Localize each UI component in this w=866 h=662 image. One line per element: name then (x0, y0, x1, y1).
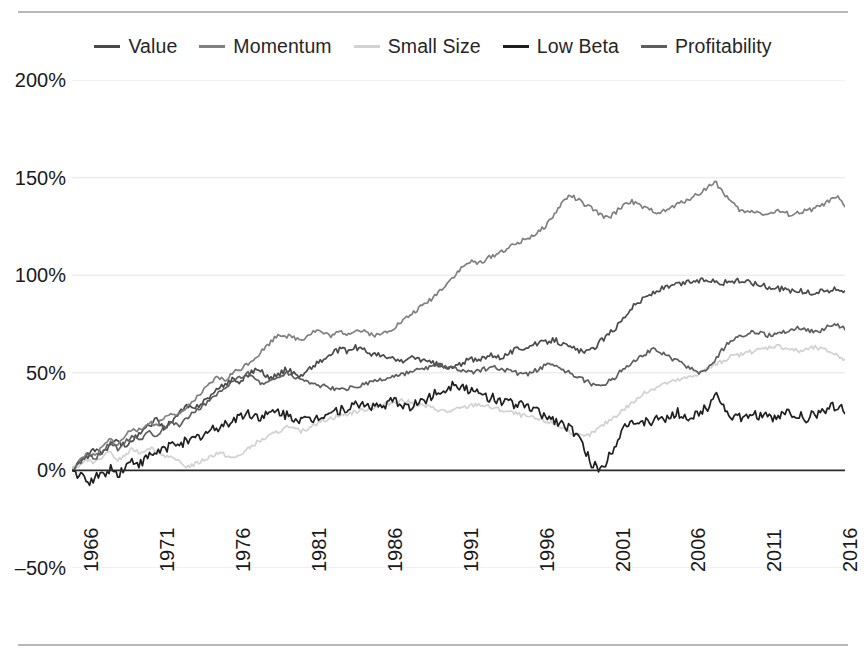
x-axis-tick-label: 1981 (309, 528, 329, 573)
x-axis-tick-label: 1976 (233, 528, 253, 573)
x-axis: 1966197119761981198619911996200120062011… (0, 0, 866, 662)
bottom-divider-rule (18, 644, 848, 646)
x-axis-tick-label: 2001 (613, 528, 633, 573)
x-axis-tick-label: 2006 (688, 528, 708, 573)
x-axis-tick-label: 1966 (81, 528, 101, 573)
chart-figure: ValueMomentumSmall SizeLow BetaProfitabi… (0, 0, 866, 662)
x-axis-tick-label: 2016 (840, 528, 860, 573)
x-axis-tick-label: 1996 (537, 528, 557, 573)
x-axis-tick-label: 1991 (461, 528, 481, 573)
x-axis-tick-label: 1971 (157, 528, 177, 573)
x-axis-tick-label: 2011 (764, 529, 784, 572)
x-axis-tick-label: 1986 (385, 528, 405, 573)
